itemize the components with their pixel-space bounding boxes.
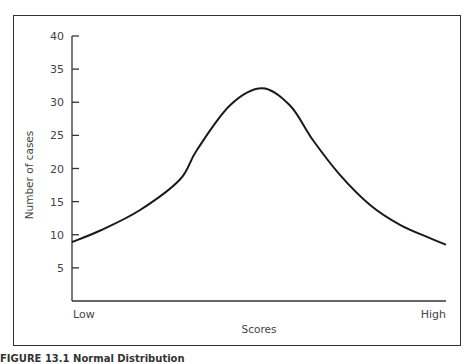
x-axis-title: Scores bbox=[242, 323, 277, 335]
y-axis-title: Number of cases bbox=[23, 131, 35, 220]
y-tick-label: 20 bbox=[50, 163, 64, 176]
y-tick-label: 40 bbox=[50, 30, 64, 43]
x-tick-high: High bbox=[421, 308, 446, 321]
x-tick-low: Low bbox=[73, 308, 95, 321]
y-tick-label: 25 bbox=[50, 129, 64, 142]
y-tick-label: 10 bbox=[50, 229, 64, 242]
y-axis-ticks: 510152025303540 bbox=[50, 30, 79, 275]
distribution-curve bbox=[72, 88, 446, 244]
figure-caption: FIGURE 13.1 Normal Distribution bbox=[0, 353, 185, 364]
y-tick-label: 5 bbox=[57, 262, 64, 275]
y-tick-label: 35 bbox=[50, 63, 64, 76]
y-tick-label: 15 bbox=[50, 196, 64, 209]
y-tick-label: 30 bbox=[50, 96, 64, 109]
chart-axes bbox=[72, 36, 446, 301]
